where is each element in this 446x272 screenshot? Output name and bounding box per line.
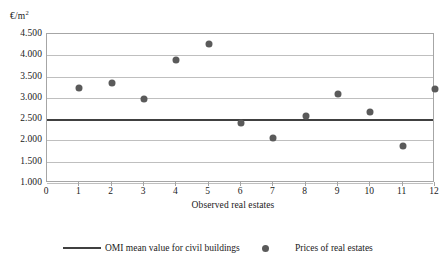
y-axis-tick-label: 2.500	[0, 113, 42, 123]
gridline	[47, 98, 433, 99]
x-axis-tick-label: 7	[270, 186, 275, 196]
x-axis-tick-label: 5	[205, 186, 210, 196]
legend-dot-swatch-icon	[262, 245, 269, 252]
x-axis-tick-mark	[78, 182, 79, 186]
plot-area	[46, 33, 434, 182]
legend-line-swatch-icon	[63, 247, 101, 249]
x-axis-tick-label: 8	[302, 186, 307, 196]
data-point	[141, 95, 148, 102]
y-axis-tick-label: 3.000	[0, 92, 42, 102]
x-axis-tick-label: 6	[238, 186, 243, 196]
legend-label-omi-mean-value: OMI mean value for civil buildings	[105, 243, 240, 253]
x-axis-tick-mark	[208, 182, 209, 186]
data-point	[205, 40, 212, 47]
data-point	[302, 113, 309, 120]
x-axis-tick-label: 12	[429, 186, 439, 196]
gridline	[47, 140, 433, 141]
x-axis-tick-label: 10	[365, 186, 375, 196]
data-point	[76, 85, 83, 92]
data-point	[399, 142, 406, 149]
data-point	[432, 86, 439, 93]
x-axis-tick-mark	[369, 182, 370, 186]
x-axis-tick-label: 1	[76, 186, 81, 196]
x-axis-tick-label: 0	[44, 186, 49, 196]
data-point	[270, 135, 277, 142]
y-axis-tick-label: 1.500	[0, 156, 42, 166]
x-axis-tick-label: 11	[397, 186, 406, 196]
data-point	[335, 90, 342, 97]
chart-legend: OMI mean value for civil buildings Price…	[0, 243, 446, 261]
x-axis-tick-mark	[402, 182, 403, 186]
gridline	[47, 162, 433, 163]
x-axis-tick-label: 9	[335, 186, 340, 196]
x-axis-tick-mark	[111, 182, 112, 186]
x-axis-tick-mark	[240, 182, 241, 186]
data-point	[367, 108, 374, 115]
y-axis-tick-label: 4.000	[0, 49, 42, 59]
y-axis-tick-label: 1.000	[0, 177, 42, 187]
y-axis-tick-label: 2.000	[0, 134, 42, 144]
y-axis-tick-labels: 1.0001.5002.0002.5003.0003.5004.0004.500	[0, 0, 42, 272]
x-axis-tick-mark	[337, 182, 338, 186]
y-axis-tick-label: 3.500	[0, 71, 42, 81]
x-axis-tick-mark	[175, 182, 176, 186]
x-axis-tick-mark	[143, 182, 144, 186]
data-point	[238, 119, 245, 126]
data-point	[173, 57, 180, 64]
legend-label-prices-of-real-estates: Prices of real estates	[295, 243, 373, 253]
data-point	[108, 79, 115, 86]
x-axis-tick-label: 4	[173, 186, 178, 196]
x-axis-title: Observed real estates	[0, 200, 446, 210]
x-axis-tick-mark	[305, 182, 306, 186]
x-axis-tick-label: 2	[108, 186, 113, 196]
gridline	[47, 77, 433, 78]
y-axis-tick-label: 4.500	[0, 28, 42, 38]
chart-container: €/m2 1.0001.5002.0002.5003.0003.5004.000…	[0, 0, 446, 272]
legend-item-omi-mean-value: OMI mean value for civil buildings	[63, 243, 240, 253]
gridline	[47, 55, 433, 56]
x-axis-tick-mark	[434, 182, 435, 186]
legend-item-prices-of-real-estates: Prices of real estates	[262, 243, 373, 253]
x-axis-tick-label: 3	[141, 186, 146, 196]
x-axis-tick-mark	[272, 182, 273, 186]
